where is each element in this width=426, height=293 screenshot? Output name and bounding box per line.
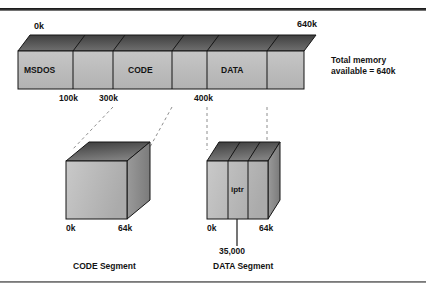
- memory-bar-start-label: 0k: [34, 22, 44, 31]
- memory-bar-tick-300k: 300k: [99, 94, 118, 103]
- memory-bar-segment-label-data: DATA: [221, 66, 243, 75]
- data-segment-caption: DATA Segment: [213, 262, 273, 271]
- code-segment-start-label: 0k: [66, 224, 75, 233]
- memory-bar-end-label: 640k: [297, 20, 317, 29]
- memory-bar: [18, 35, 316, 89]
- memory-layout-figure: 0k 640k MSDOS CODE DATA 100k 300k 400k T…: [0, 0, 426, 293]
- connector-code-right: [150, 107, 172, 147]
- code-segment-front-face: [66, 161, 127, 219]
- memory-bar-segment-label-msdos: MSDOS: [24, 66, 55, 75]
- data-segment-end-label: 64k: [259, 224, 273, 233]
- memory-bar-tick-100k: 100k: [59, 94, 78, 103]
- data-segment-top-face: [207, 142, 280, 161]
- memory-bar-top-face: [18, 35, 316, 51]
- total-memory-note-line1: Total memory: [331, 55, 386, 65]
- iptr-label: iptr: [231, 186, 244, 194]
- data-segment-start-label: 0k: [207, 224, 216, 233]
- diagram-canvas: [0, 0, 426, 293]
- total-memory-note: Total memory available = 640k: [331, 55, 423, 77]
- memory-bar-segment-label-code: CODE: [128, 66, 153, 75]
- total-memory-note-line2: available = 640k: [331, 66, 396, 76]
- code-segment-box: [66, 142, 150, 219]
- memory-bar-tick-400k: 400k: [194, 94, 213, 103]
- code-segment-end-label: 64k: [118, 224, 132, 233]
- code-segment-caption: CODE Segment: [73, 262, 136, 271]
- iptr-address-label: 35,000: [219, 247, 245, 256]
- memory-bar-front-face: [18, 51, 304, 89]
